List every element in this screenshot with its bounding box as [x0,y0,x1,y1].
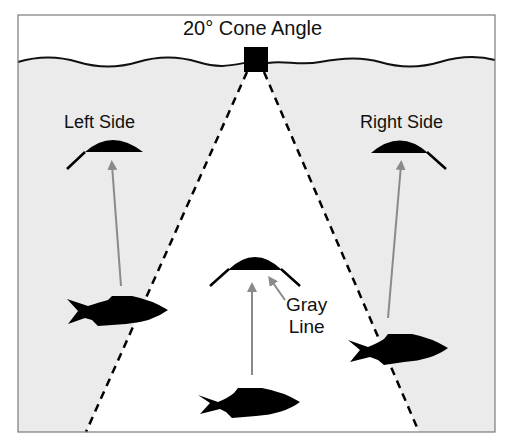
gray-line-label-line1: Gray [286,294,327,316]
gray-line-label: Gray Line [286,294,327,338]
gray-line-label-line2: Line [286,316,327,338]
right-side-label: Right Side [360,112,443,133]
transducer-icon [244,47,268,72]
left-side-label: Left Side [64,112,135,133]
sonar-cone-diagram [0,0,505,446]
diagram-title: 20° Cone Angle [0,17,505,40]
